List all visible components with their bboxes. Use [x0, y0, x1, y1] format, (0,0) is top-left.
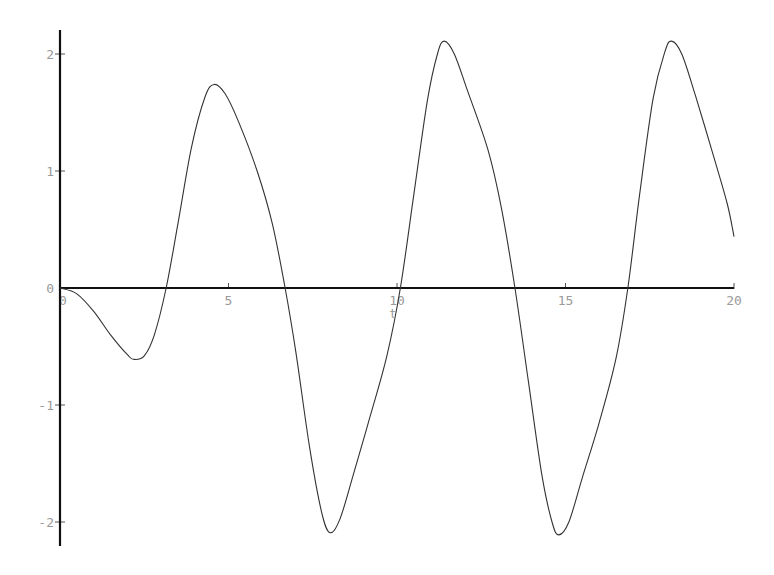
- x-tick-label: 5: [225, 293, 233, 308]
- y-tick-label: -2: [38, 515, 54, 530]
- y-tick-label: 1: [46, 164, 54, 179]
- y-tick-label: -1: [38, 398, 54, 413]
- y-tick-label: 2: [46, 47, 54, 62]
- x-tick-label: 15: [558, 293, 574, 308]
- chart-plot: 05101520 -2-1012 t: [0, 0, 774, 575]
- x-tick-label: 20: [726, 293, 742, 308]
- y-tick-label: 0: [46, 281, 54, 296]
- x-axis-label: t: [389, 306, 397, 321]
